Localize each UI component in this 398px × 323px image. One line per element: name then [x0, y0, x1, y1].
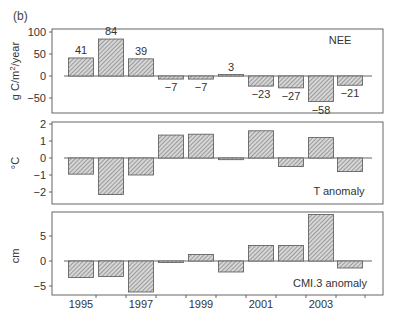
y-axis-label: °C: [9, 157, 21, 169]
bar-1998: [159, 135, 184, 158]
bar-1995: [69, 58, 94, 76]
y-tick-label: 0: [40, 255, 46, 267]
y-tick-label: 2: [40, 118, 46, 130]
bar-1995: [69, 261, 94, 278]
bar-value-label: −27: [282, 90, 301, 102]
bar-1999: [189, 76, 214, 79]
y-tick-label: −1: [33, 169, 46, 181]
panel-annotation: NEE: [329, 34, 352, 46]
bar-2000: [219, 261, 244, 272]
bar-1998: [159, 76, 184, 79]
bar-2003: [309, 215, 334, 262]
bar-2004: [338, 261, 363, 268]
y-tick-label: −50: [27, 92, 46, 104]
panel-1: 100500−50g C/m2/year418439−7−73−23−27−58…: [8, 25, 384, 115]
bar-value-label: −21: [341, 87, 360, 99]
bar-2002: [279, 76, 304, 88]
bar-2000: [219, 158, 244, 160]
bar-2002: [279, 158, 304, 167]
x-tick-label: 1999: [189, 298, 213, 310]
x-tick-label: 2001: [249, 298, 273, 310]
panel-3: 50−5cmCMI.3 anomaly19951997199920012003: [9, 212, 383, 310]
panel-annotation: CMI.3 anomaly: [293, 277, 367, 289]
bar-value-label: −7: [165, 81, 178, 93]
bar-1998: [159, 261, 184, 263]
x-tick-label: 1997: [129, 298, 153, 310]
bar-2001: [249, 76, 274, 86]
bar-1999: [189, 255, 214, 262]
y-tick-label: 1: [40, 135, 46, 147]
bar-2004: [338, 158, 363, 172]
chart-figure: 100500−50g C/m2/year418439−7−73−23−27−58…: [0, 0, 398, 323]
y-tick-label: −5: [33, 280, 46, 292]
panel-annotation: T anomaly: [313, 185, 365, 197]
bar-value-label: 3: [228, 61, 234, 73]
y-tick-label: 0: [40, 70, 46, 82]
bar-1999: [189, 134, 214, 158]
bar-value-label: 41: [75, 44, 87, 56]
y-tick-label: 50: [34, 48, 46, 60]
bar-2004: [338, 76, 363, 85]
x-tick-label: 2003: [309, 298, 333, 310]
x-tick-label: 1995: [69, 298, 93, 310]
bar-2001: [249, 246, 274, 262]
y-axis-label: g C/m2/year: [8, 42, 22, 101]
bar-2000: [219, 75, 244, 77]
bar-1997: [129, 158, 154, 175]
bar-value-label: 39: [135, 45, 147, 57]
bar-value-label: −58: [312, 104, 331, 116]
bar-2003: [309, 138, 334, 158]
bar-1996: [99, 39, 124, 76]
bar-1995: [69, 158, 94, 174]
bar-1997: [129, 261, 154, 292]
bar-value-label: −7: [195, 81, 208, 93]
bar-2002: [279, 246, 304, 262]
bar-1997: [129, 59, 154, 76]
y-tick-label: −2: [33, 186, 46, 198]
y-tick-label: 100: [28, 26, 46, 38]
y-tick-label: 5: [40, 230, 46, 242]
y-tick-label: 0: [40, 152, 46, 164]
y-axis-label: cm: [9, 249, 21, 264]
bar-2001: [249, 131, 274, 158]
panel-2: 210−1−2°CT anomaly: [9, 118, 383, 204]
bar-1996: [99, 261, 124, 277]
bar-value-label: −23: [252, 88, 271, 100]
bar-1996: [99, 158, 124, 195]
bar-value-label: 84: [105, 25, 117, 37]
bar-2003: [309, 76, 334, 102]
